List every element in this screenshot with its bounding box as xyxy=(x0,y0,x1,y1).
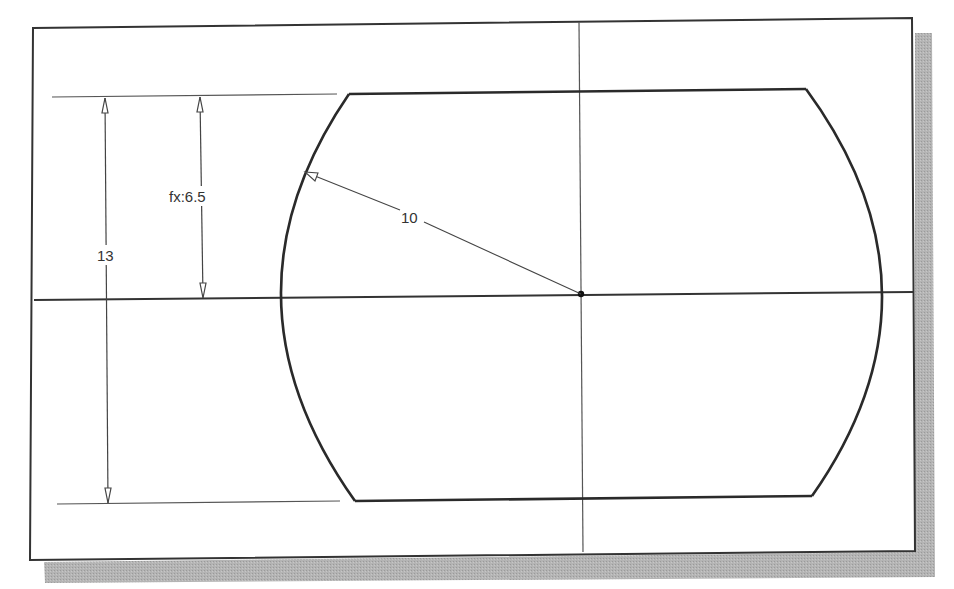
dimension-label-half-height[interactable]: fx:6.5 xyxy=(169,188,206,205)
dimension-label-total-height[interactable]: 13 xyxy=(97,247,114,264)
dimension-label-arc-radius[interactable]: 10 xyxy=(401,209,418,226)
viewport-frame xyxy=(30,18,915,560)
sketch-canvas: 13 fx:6.5 10 xyxy=(0,0,954,589)
